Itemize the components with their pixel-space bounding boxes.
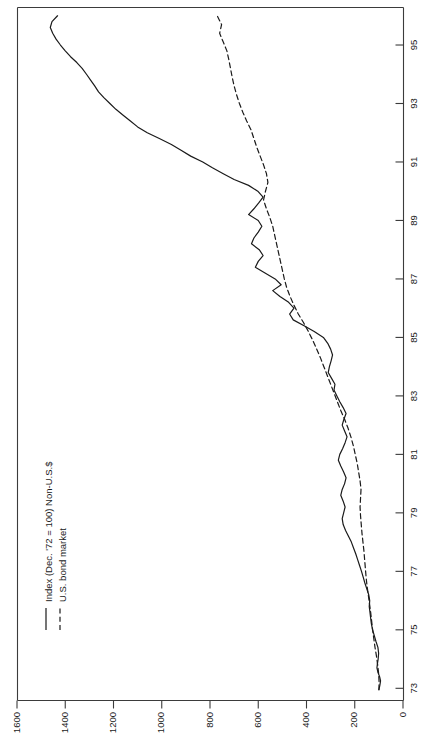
value-tick-label: 1400 bbox=[59, 712, 70, 733]
value-tick-label: 600 bbox=[252, 712, 263, 728]
year-tick-label: 75 bbox=[408, 625, 419, 636]
value-tick-label: 800 bbox=[204, 712, 215, 728]
value-tick-label: 1000 bbox=[155, 712, 166, 733]
rotated-line-chart: 02004006008001000120014001600 7375777981… bbox=[0, 0, 429, 746]
value-tick-label: 1600 bbox=[11, 712, 22, 733]
year-tick-label: 95 bbox=[408, 40, 419, 51]
year-tick-label: 81 bbox=[408, 449, 419, 460]
year-tick-label: 89 bbox=[408, 215, 419, 226]
value-tick-label: 0 bbox=[397, 712, 408, 717]
value-tick-label: 200 bbox=[348, 712, 359, 728]
legend-label: Index (Dec. '72 = 100) Non-U.S.$ bbox=[43, 461, 54, 602]
year-tick-label: 79 bbox=[408, 508, 419, 519]
chart-figure: 02004006008001000120014001600 7375777981… bbox=[0, 0, 429, 746]
chart-background bbox=[0, 0, 429, 746]
year-tick-label: 73 bbox=[408, 683, 419, 694]
value-tick-label: 400 bbox=[300, 712, 311, 728]
year-tick-label: 85 bbox=[408, 332, 419, 343]
legend-label: U.S. bond market bbox=[57, 528, 68, 602]
year-tick-label: 91 bbox=[408, 157, 419, 168]
year-tick-label: 93 bbox=[408, 98, 419, 109]
value-tick-label: 1200 bbox=[107, 712, 118, 733]
year-tick-label: 83 bbox=[408, 391, 419, 402]
year-tick-label: 77 bbox=[408, 566, 419, 577]
year-tick-label: 87 bbox=[408, 274, 419, 285]
